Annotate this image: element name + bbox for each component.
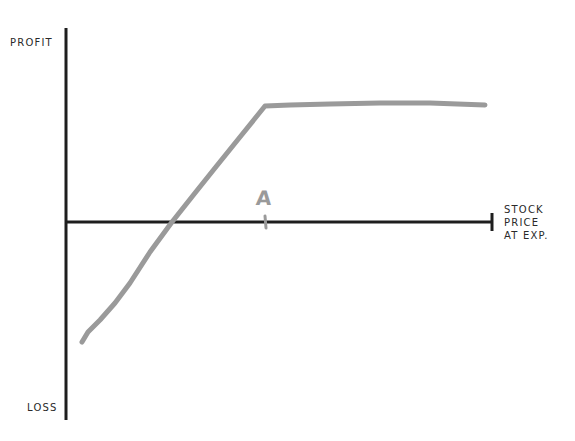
payoff-diagram <box>0 0 575 441</box>
strike-marker-label: A <box>255 186 272 210</box>
strike-marker-dash <box>265 216 266 228</box>
y-axis-top-label: PROFIT <box>10 36 53 49</box>
y-axis-bottom-label: LOSS <box>27 401 58 414</box>
x-axis-label: STOCK PRICE AT EXP. <box>504 203 549 242</box>
